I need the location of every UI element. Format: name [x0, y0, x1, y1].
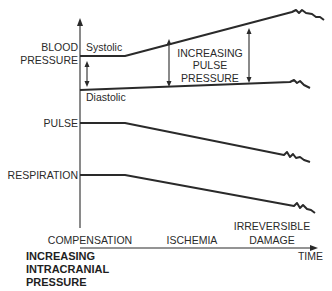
phase-ischemia: ISCHEMIA [167, 234, 218, 246]
pulse-line [80, 123, 310, 162]
label-pulse: PULSE [44, 117, 78, 129]
label-blood: BLOOD [41, 41, 78, 53]
label-systolic: Systolic [86, 41, 122, 53]
respiration-line [80, 175, 315, 213]
phase-damage: DAMAGE [249, 234, 295, 246]
annotation-line3: PRESSURE [181, 72, 239, 84]
label-respiration: RESPIRATION [8, 169, 78, 181]
phase-compensation: COMPENSATION [48, 234, 132, 246]
phase-irreversible: IRREVERSIBLE [234, 220, 310, 232]
annotation-line1: INCREASING [177, 47, 242, 59]
label-pressure: PRESSURE [20, 54, 78, 66]
icp-diagram: BLOOD PRESSURE PULSE RESPIRATION Systoli… [0, 0, 332, 291]
title-line1: INCREASING [26, 250, 95, 262]
x-axis-label: TIME [298, 250, 323, 262]
annotation-line2: PULSE [193, 59, 227, 71]
label-diastolic: Diastolic [86, 91, 126, 103]
title-line2: INTRACRANIAL [26, 263, 109, 275]
title-line3: PRESSURE [26, 276, 87, 288]
